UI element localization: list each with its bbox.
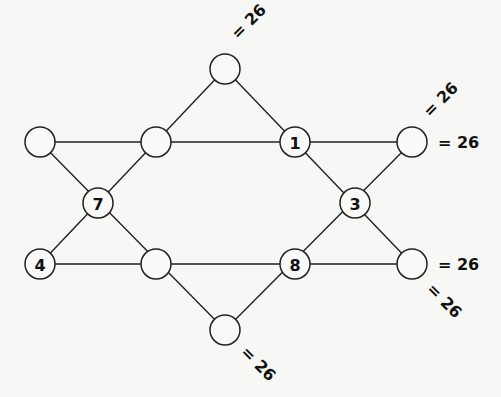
line-top-to-left [40,69,225,264]
node-circle [397,249,427,279]
node-mid-right: 3 [340,188,370,218]
node-circle [397,127,427,157]
sum-label: = 26 [438,133,479,152]
node-circle [210,54,240,84]
line-top-to-right [225,69,412,264]
node-bottom[interactable] [210,315,240,345]
line-bottom-to-left [40,142,225,330]
sum-label: = 26 [423,279,466,322]
node-row1-inner-l[interactable] [141,127,171,157]
sum-label: = 26 [419,78,462,121]
node-row3-left: 4 [25,249,55,279]
node-circle [141,127,171,157]
line-bottom-to-right [225,142,412,330]
node-value: 7 [92,195,103,214]
node-circle [210,315,240,345]
node-row1-right[interactable] [397,127,427,157]
node-row1-inner-r: 1 [280,127,310,157]
node-circle [141,249,171,279]
sum-label: = 26 [227,0,270,43]
node-row1-left[interactable] [25,127,55,157]
node-top[interactable] [210,54,240,84]
diagram-canvas: 17348 = 26= 26= 26= 26= 26= 26 [0,0,501,397]
node-value: 8 [289,256,300,275]
node-circle [25,127,55,157]
node-row3-inner-r: 8 [280,249,310,279]
magic-star-diagram: 17348 = 26= 26= 26= 26= 26= 26 [0,0,501,397]
star-nodes: 17348 [25,54,427,345]
node-value: 4 [34,256,45,275]
sum-label: = 26 [438,255,479,274]
node-value: 3 [349,195,360,214]
sum-label: = 26 [237,342,280,385]
node-row3-right[interactable] [397,249,427,279]
node-value: 1 [289,134,300,153]
node-mid-left: 7 [83,188,113,218]
node-row3-inner-l[interactable] [141,249,171,279]
